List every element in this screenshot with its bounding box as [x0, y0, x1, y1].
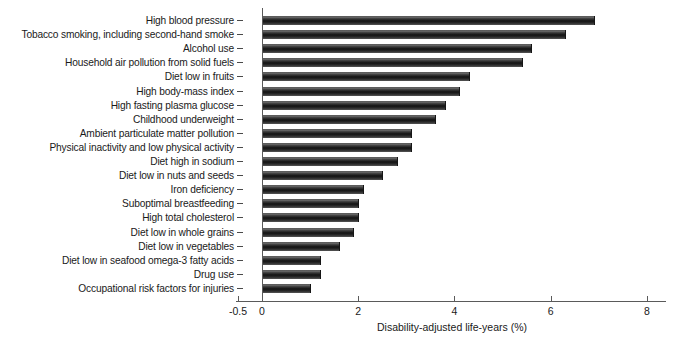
bar	[263, 185, 364, 194]
category-tick	[237, 217, 243, 218]
category-label: High blood pressure	[146, 15, 234, 26]
chart-figure: High blood pressureTobacco smoking, incl…	[0, 0, 685, 345]
category-label: Occupational risk factors for injuries	[78, 283, 234, 294]
category-tick	[237, 34, 243, 35]
category-label: Ambient particulate matter pollution	[80, 128, 234, 139]
category-label: Iron deficiency	[171, 184, 234, 195]
category-label: Diet low in vegetables	[138, 241, 234, 252]
x-tick-label: 0	[259, 305, 265, 317]
category-label: Physical inactivity and low physical act…	[49, 142, 234, 153]
bar	[263, 72, 470, 81]
bar	[263, 16, 595, 25]
category-label: Tobacco smoking, including second-hand s…	[21, 29, 234, 40]
category-tick	[237, 91, 243, 92]
x-axis-line	[236, 301, 666, 302]
category-tick	[237, 62, 243, 63]
category-label: Drug use	[194, 269, 234, 280]
category-label: Childhood underweight	[133, 114, 234, 125]
x-tick	[454, 296, 455, 302]
bar	[263, 228, 354, 237]
category-label: Diet low in whole grains	[131, 227, 234, 238]
category-tick	[237, 232, 243, 233]
bar	[263, 115, 436, 124]
category-label: High total cholesterol	[142, 212, 234, 223]
category-tick	[237, 274, 243, 275]
bar	[263, 58, 523, 67]
category-label: Diet high in sodium	[150, 156, 234, 167]
category-tick	[237, 76, 243, 77]
bar	[263, 270, 321, 279]
category-tick	[237, 203, 243, 204]
category-label: High body-mass index	[136, 86, 234, 97]
x-tick	[358, 296, 359, 302]
plot-area	[262, 8, 662, 300]
category-label: Alcohol use	[183, 43, 234, 54]
x-tick-label: 4	[451, 305, 457, 317]
bar	[263, 284, 311, 293]
bar	[263, 199, 359, 208]
category-tick	[237, 288, 243, 289]
x-tick-label: 2	[355, 305, 361, 317]
x-tick	[647, 296, 648, 302]
category-tick	[237, 147, 243, 148]
bar	[263, 87, 460, 96]
category-tick	[237, 119, 243, 120]
category-label: Diet low in nuts and seeds	[119, 170, 234, 181]
category-label: High fasting plasma glucose	[111, 100, 234, 111]
x-tick	[238, 296, 239, 302]
category-tick	[237, 260, 243, 261]
category-tick	[237, 48, 243, 49]
bar	[263, 171, 383, 180]
bar	[263, 242, 340, 251]
category-tick	[237, 175, 243, 176]
category-tick	[237, 133, 243, 134]
bar	[263, 101, 446, 110]
bar	[263, 256, 321, 265]
bar	[263, 44, 532, 53]
category-tick	[237, 189, 243, 190]
category-tick	[237, 20, 243, 21]
category-label: Suboptimal breastfeeding	[122, 198, 234, 209]
bar	[263, 129, 412, 138]
x-tick-label: -0.5	[229, 305, 247, 317]
bar	[263, 157, 398, 166]
x-tick-label: 6	[548, 305, 554, 317]
bar	[263, 143, 412, 152]
bar	[263, 30, 566, 39]
category-label: Diet low in fruits	[165, 71, 234, 82]
category-axis-labels: High blood pressureTobacco smoking, incl…	[0, 0, 248, 300]
x-tick	[551, 296, 552, 302]
x-tick-label: 8	[644, 305, 650, 317]
category-tick	[237, 161, 243, 162]
category-tick	[237, 246, 243, 247]
category-label: Diet low in seafood omega-3 fatty acids	[62, 255, 234, 266]
x-axis-title: Disability-adjusted life-years (%)	[377, 321, 527, 333]
x-tick	[262, 296, 263, 302]
category-label: Household air pollution from solid fuels	[65, 57, 234, 68]
category-tick	[237, 105, 243, 106]
bar	[263, 213, 359, 222]
